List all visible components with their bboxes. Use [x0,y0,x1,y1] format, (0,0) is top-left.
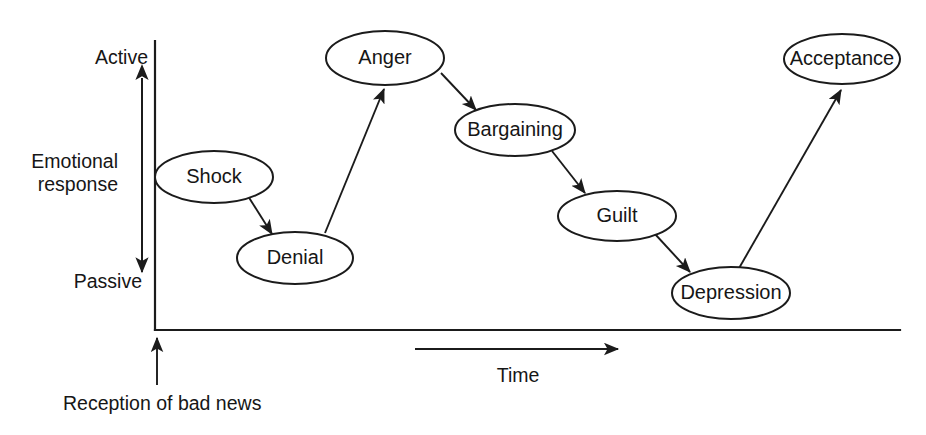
stage-node-acceptance[interactable]: Acceptance [784,34,900,84]
stage-node-bargaining[interactable]: Bargaining [455,104,575,156]
emotional-response-diagram: Active Emotional response Passive Time R… [0,0,926,435]
axis-label-emotional-line1: Emotional [31,150,118,172]
stage-label-bargaining: Bargaining [467,118,563,140]
stage-label-denial: Denial [267,246,324,268]
transition-shock-to-denial [248,196,272,234]
transition-bargaining-to-guilt [552,151,585,193]
axis-label-passive: Passive [74,270,142,292]
stage-node-guilt[interactable]: Guilt [558,191,676,241]
axis-label-time: Time [497,364,540,386]
stage-label-acceptance: Acceptance [790,47,895,69]
stage-label-shock: Shock [186,165,243,187]
stage-label-anger: Anger [358,46,412,68]
axis-label-active: Active [95,46,148,68]
transition-anger-to-bargaining [441,73,476,110]
stage-node-depression[interactable]: Depression [672,267,790,319]
stage-node-shock[interactable]: Shock [155,151,273,203]
transition-denial-to-anger [325,89,384,233]
axis-label-emotional-line2: response [38,173,118,195]
axes-group [142,41,900,385]
axis-labels-group: Active Emotional response Passive Time R… [31,46,539,414]
stage-label-guilt: Guilt [596,204,638,226]
stage-label-depression: Depression [680,281,781,303]
transition-depression-to-acceptance [738,90,841,270]
stage-node-anger[interactable]: Anger [326,31,444,85]
stages-group: ShockDenialAngerBargainingGuiltDepressio… [155,31,900,319]
stage-node-denial[interactable]: Denial [237,232,353,284]
transition-guilt-to-depression [655,234,690,272]
diagram-canvas: Active Emotional response Passive Time R… [0,0,926,435]
annotation-reception-of-bad-news: Reception of bad news [63,392,262,414]
